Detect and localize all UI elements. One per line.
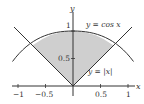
x-tick-label-05: 0.5	[95, 90, 107, 99]
y-tick-label-1: 1	[66, 21, 71, 30]
x-tick-label-neg1: −1	[13, 90, 24, 99]
cos-curve-label: y = cos x	[85, 20, 121, 29]
figure-cos-abs: x y −1 −0.5 0.5 1 0.5 1 y = cos x y = |x…	[0, 0, 144, 104]
y-axis-label: y	[69, 4, 75, 13]
y-tick-label-05: 0.5	[58, 54, 70, 63]
x-tick-label-neg05: −0.5	[35, 90, 53, 99]
plot-canvas: x y −1 −0.5 0.5 1 0.5 1 y = cos x y = |x…	[0, 0, 144, 104]
x-tick-label-1: 1	[126, 90, 131, 99]
abs-curve-label: y = |x|	[87, 67, 113, 76]
x-axis-label: x	[136, 82, 141, 91]
